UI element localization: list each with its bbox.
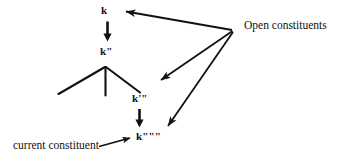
arrow-open-constituents-to-k-quad-prime bbox=[168, 32, 233, 126]
node-label-k-triple-prime: k'" bbox=[132, 93, 148, 104]
tree-right-branch bbox=[106, 67, 140, 93]
arrow-open-constituents-to-k-triple-prime bbox=[161, 31, 233, 80]
node-label-k-double-prime: k" bbox=[100, 46, 112, 57]
annotation-open-constituents: Open constituents bbox=[244, 20, 327, 32]
tree-left-branch bbox=[59, 67, 106, 94]
arrow-open-constituents-to-k bbox=[126, 12, 232, 31]
node-label-k: k bbox=[101, 5, 107, 16]
arrow-k-to-k-double-prime bbox=[103, 22, 111, 42]
constituent-tree-figure: k k" k'" k""" Open constituents current … bbox=[0, 0, 343, 161]
node-label-k-quad-prime: k""" bbox=[136, 131, 161, 142]
arrow-k-triple-to-k-quad-prime bbox=[135, 109, 143, 128]
annotation-current-constituent: current constituent bbox=[13, 140, 99, 152]
arrow-current-constituent-to-k-quad-prime bbox=[99, 138, 130, 147]
constituent-subtree bbox=[59, 67, 141, 96]
